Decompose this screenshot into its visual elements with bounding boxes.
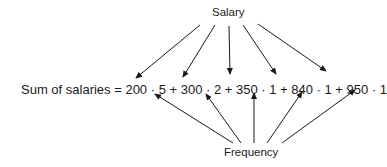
sum-equation: Sum of salaries = 200 · 5 + 300 · 2 + 35…	[21, 82, 387, 97]
salary-label: Salary	[212, 6, 245, 18]
salary-arrows	[136, 24, 326, 78]
frequency-arrows	[155, 90, 355, 143]
frequency-label: Frequency	[224, 146, 278, 158]
